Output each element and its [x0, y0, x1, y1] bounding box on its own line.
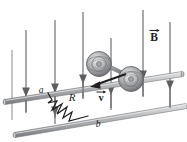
terminal-b-label: b	[96, 119, 101, 129]
velocity-vector-letter: v	[98, 92, 104, 103]
field-vector-label: B	[150, 29, 160, 43]
field-vector-letter: B	[150, 31, 158, 43]
wheel-lower	[119, 67, 144, 92]
physics-figure-svg: a b R B v	[0, 0, 187, 142]
physics-figure-container: a b R B v Conducting rod on rails in a m…	[0, 0, 187, 142]
resistor-label: R	[68, 91, 76, 103]
wheel-upper	[87, 52, 112, 77]
terminal-a-label: a	[39, 85, 44, 95]
velocity-vector-label: v	[97, 91, 107, 104]
upper-rail	[3, 71, 184, 104]
